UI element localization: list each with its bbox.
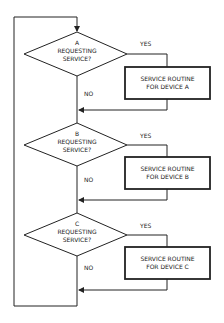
question-line: REQUESTING bbox=[47, 138, 107, 146]
no-label: NO bbox=[84, 176, 93, 184]
yes-line-b bbox=[127, 145, 167, 157]
device-letter: A bbox=[47, 39, 107, 47]
routine-a-label: SERVICE ROUTINE FOR DEVICE A bbox=[125, 75, 210, 91]
return-line-a bbox=[79, 99, 167, 110]
routine-b-label: SERVICE ROUTINE FOR DEVICE B bbox=[125, 165, 210, 181]
question-line: REQUESTING bbox=[47, 228, 107, 236]
yes-line-c bbox=[127, 235, 167, 247]
question-line: SERVICE? bbox=[47, 146, 107, 154]
routine-line: FOR DEVICE B bbox=[125, 173, 210, 181]
device-letter: C bbox=[47, 220, 107, 228]
return-line-b bbox=[79, 189, 167, 200]
decision-a-label: A REQUESTING SERVICE? bbox=[47, 39, 107, 63]
routine-line: FOR DEVICE C bbox=[125, 263, 210, 271]
routine-c-label: SERVICE ROUTINE FOR DEVICE C bbox=[125, 255, 210, 271]
device-letter: B bbox=[47, 130, 107, 138]
yes-label: YES bbox=[140, 132, 151, 140]
decision-b-label: B REQUESTING SERVICE? bbox=[47, 130, 107, 154]
routine-line: SERVICE ROUTINE bbox=[125, 255, 210, 263]
routine-line: FOR DEVICE A bbox=[125, 83, 210, 91]
yes-line-a bbox=[127, 54, 167, 67]
question-line: SERVICE? bbox=[47, 55, 107, 63]
return-line-c bbox=[79, 279, 167, 290]
yes-label: YES bbox=[140, 40, 151, 48]
no-label: NO bbox=[84, 90, 93, 98]
routine-line: SERVICE ROUTINE bbox=[125, 75, 210, 83]
decision-c-label: C REQUESTING SERVICE? bbox=[47, 220, 107, 244]
routine-line: SERVICE ROUTINE bbox=[125, 165, 210, 173]
question-line: SERVICE? bbox=[47, 236, 107, 244]
flowchart-canvas bbox=[0, 0, 224, 323]
no-label: NO bbox=[84, 264, 93, 272]
yes-label: YES bbox=[140, 222, 151, 230]
question-line: REQUESTING bbox=[47, 47, 107, 55]
